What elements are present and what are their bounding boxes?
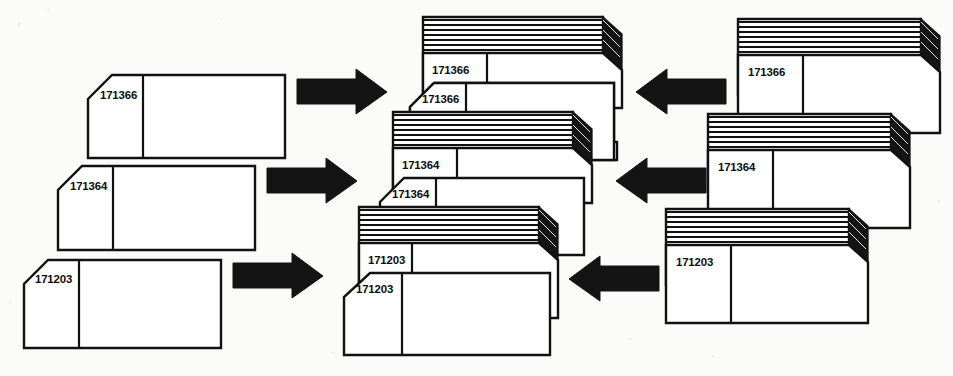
source-card-label: 171366 (100, 89, 137, 101)
middle-stack-label: 171366 (432, 64, 469, 76)
middle-front-card-label: 171364 (392, 188, 430, 200)
middle-stack-layers (359, 210, 539, 240)
source-card-outline (88, 75, 285, 158)
middle-stack-label: 171203 (368, 254, 405, 266)
target-stack-label: 171364 (718, 161, 756, 173)
source-card-label: 171364 (70, 180, 108, 192)
source-card-label: 171203 (35, 273, 72, 285)
target-stack-layers (666, 212, 849, 242)
source-card-171203[interactable]: 171203 (24, 260, 221, 348)
middle-front-card-171203[interactable]: 171203 (344, 273, 550, 355)
middle-stack-layers (393, 115, 573, 145)
middle-front-card-label: 171366 (422, 93, 459, 105)
target-stack-label: 171366 (748, 66, 785, 78)
middle-group-171203: 171203 171203 (344, 207, 558, 355)
diagram-root: 171366 (0, 0, 953, 376)
source-card-171364[interactable]: 171364 (58, 166, 255, 250)
card-flow-diagram: 171366 (0, 0, 953, 376)
target-stack-layers (738, 22, 921, 52)
target-stack-layers (708, 117, 891, 147)
source-card-171366[interactable]: 171366 (88, 75, 285, 158)
target-stack-label: 171203 (676, 256, 713, 268)
middle-stack-layers (423, 20, 603, 50)
target-stack-171203[interactable]: 171203 (666, 209, 868, 323)
source-card-outline (58, 166, 255, 250)
middle-front-card-label: 171203 (356, 283, 393, 295)
middle-stack-label: 171364 (402, 159, 440, 171)
